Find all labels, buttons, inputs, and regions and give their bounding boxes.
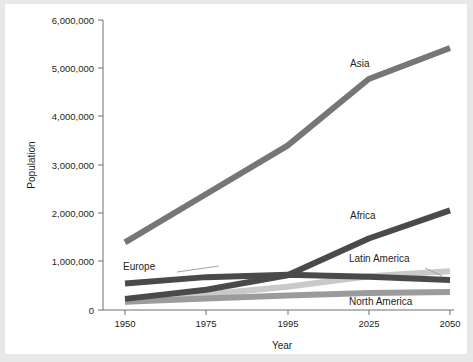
x-tick-label-1975: 1975 bbox=[195, 318, 216, 329]
y-tick-label-5000000: 5,000,000 bbox=[52, 63, 94, 74]
y-axis-title: Population bbox=[26, 141, 37, 188]
line-chart: 6,000,000 5,000,000 4,000,000 3,000,000 … bbox=[5, 4, 467, 354]
figure-root: 6,000,000 5,000,000 4,000,000 3,000,000 … bbox=[0, 0, 473, 362]
y-tick-label-6000000: 6,000,000 bbox=[52, 15, 94, 26]
europe-leader-line bbox=[177, 266, 219, 272]
series-label-asia: Asia bbox=[350, 58, 370, 69]
plot-canvas: 6,000,000 5,000,000 4,000,000 3,000,000 … bbox=[5, 4, 467, 354]
frame-edge-right bbox=[467, 0, 473, 362]
y-tick-label-4000000: 4,000,000 bbox=[52, 111, 94, 122]
x-axis-title: Year bbox=[272, 340, 293, 351]
y-tick-label-1000000: 1,000,000 bbox=[52, 256, 94, 267]
x-tick-label-1995: 1995 bbox=[277, 318, 298, 329]
x-tick-label-2050: 2050 bbox=[439, 318, 460, 329]
series-line-asia bbox=[125, 48, 450, 242]
frame-edge-bottom bbox=[0, 354, 473, 362]
x-tick-label-2025: 2025 bbox=[358, 318, 379, 329]
y-tick-label-0: 0 bbox=[89, 305, 94, 316]
series-label-north-america: North America bbox=[349, 296, 413, 307]
series-label-europe: Europe bbox=[123, 261, 156, 272]
y-tick-label-3000000: 3,000,000 bbox=[52, 160, 94, 171]
series-label-latin-america: Latin America bbox=[349, 253, 410, 264]
series-label-africa: Africa bbox=[350, 210, 376, 221]
y-tick-marks bbox=[98, 20, 103, 310]
x-tick-marks bbox=[125, 310, 450, 315]
x-tick-label-1950: 1950 bbox=[114, 318, 135, 329]
y-tick-label-2000000: 2,000,000 bbox=[52, 208, 94, 219]
